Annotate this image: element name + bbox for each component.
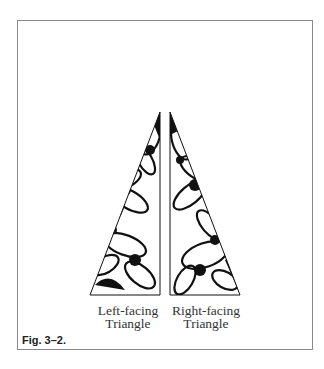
right-triangle-label: Right-facing Triangle bbox=[166, 304, 246, 330]
figure-caption: Fig. 3–2. bbox=[22, 334, 66, 346]
left-triangle-label: Left-facing Triangle bbox=[88, 304, 168, 330]
right-label-line2: Triangle bbox=[166, 317, 246, 330]
left-label-line2: Triangle bbox=[88, 317, 168, 330]
